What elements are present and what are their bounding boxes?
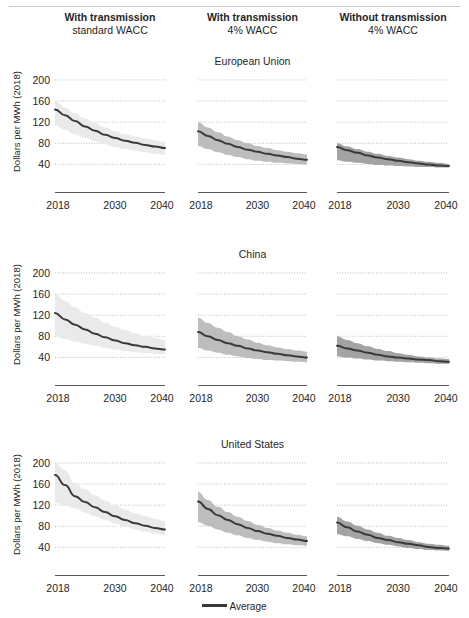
chart-row-1: European UnionDollars per MWh (2018)4080…	[0, 0, 469, 618]
column-header-2: With transmission4% WACC	[176, 11, 329, 36]
average-line	[337, 523, 449, 549]
chart-row-2: ChinaDollars per MWh (2018)4080120160200…	[0, 0, 469, 618]
x-axis-line-r2-c3	[337, 385, 449, 386]
uncertainty-band	[198, 318, 307, 362]
x-tick-2040: 2040	[284, 199, 324, 211]
x-tick-2018: 2018	[320, 392, 360, 404]
column-header-line1: With transmission	[176, 11, 329, 24]
row-title-1: European Union	[187, 55, 318, 67]
plot-area	[198, 455, 307, 558]
x-tick-2018: 2018	[38, 582, 78, 594]
x-tick-2040: 2040	[426, 199, 466, 211]
x-tick-2030: 2030	[237, 392, 277, 404]
panel-r3-c2	[198, 455, 307, 558]
plot-area	[337, 265, 449, 368]
panel-r2-c2	[198, 265, 307, 368]
chart-row-3: United StatesDollars per MWh (2018)40801…	[0, 0, 469, 618]
average-line	[198, 501, 307, 541]
average-line	[55, 475, 165, 529]
plot-area	[198, 265, 307, 368]
uncertainty-band	[198, 492, 307, 546]
y-tick-120: 120	[24, 117, 50, 127]
row-title-2: China	[187, 248, 318, 260]
x-tick-2018: 2018	[320, 582, 360, 594]
panel-r2-c3	[337, 265, 449, 368]
uncertainty-band	[337, 517, 449, 551]
uncertainty-band	[337, 143, 449, 167]
panel-r1-c3	[337, 72, 449, 175]
panel-r1-c2	[198, 72, 307, 175]
column-header-3: Without transmission4% WACC	[315, 11, 469, 36]
y-tick-120: 120	[24, 310, 50, 320]
plot-area	[55, 72, 165, 175]
x-tick-2018: 2018	[181, 199, 221, 211]
column-header-line2: 4% WACC	[176, 24, 329, 37]
x-axis-line-r1-c3	[337, 192, 449, 193]
x-tick-2040: 2040	[142, 582, 182, 594]
y-tick-200: 200	[24, 75, 50, 85]
column-header-line1: With transmission	[33, 11, 187, 24]
plot-area	[337, 455, 449, 558]
y-axis-label-row-1: Dollars per MWh (2018)	[11, 71, 22, 172]
y-tick-80: 80	[24, 138, 50, 148]
x-tick-2030: 2030	[378, 199, 418, 211]
legend-label-average: Average	[229, 601, 266, 612]
x-tick-2040: 2040	[142, 392, 182, 404]
y-tick-200: 200	[24, 268, 50, 278]
uncertainty-band	[55, 294, 165, 354]
average-line	[55, 313, 165, 349]
x-axis-line-r2-c2	[198, 385, 307, 386]
average-line	[337, 147, 449, 166]
y-axis-label-row-3: Dollars per MWh (2018)	[11, 454, 22, 555]
y-tick-160: 160	[24, 479, 50, 489]
y-axis-label-row-2: Dollars per MWh (2018)	[11, 264, 22, 365]
average-line	[337, 346, 449, 362]
plot-area	[198, 72, 307, 175]
x-axis-line-r1-c2	[198, 192, 307, 193]
x-tick-2018: 2018	[181, 392, 221, 404]
column-header-line2: 4% WACC	[315, 24, 469, 37]
y-tick-120: 120	[24, 500, 50, 510]
panel-r3-c3	[337, 455, 449, 558]
y-tick-40: 40	[24, 542, 50, 552]
y-tick-80: 80	[24, 521, 50, 531]
plot-area	[55, 455, 165, 558]
panel-r2-c1	[55, 265, 165, 368]
x-tick-2030: 2030	[237, 582, 277, 594]
x-tick-2018: 2018	[38, 199, 78, 211]
y-tick-40: 40	[24, 159, 50, 169]
x-tick-2030: 2030	[237, 199, 277, 211]
x-axis-line-r3-c3	[337, 575, 449, 576]
x-tick-2018: 2018	[320, 199, 360, 211]
x-tick-2040: 2040	[142, 199, 182, 211]
x-tick-2040: 2040	[284, 392, 324, 404]
panel-r3-c1	[55, 455, 165, 558]
plot-area	[337, 72, 449, 175]
x-tick-2030: 2030	[378, 392, 418, 404]
x-tick-2040: 2040	[426, 392, 466, 404]
x-axis-line-r2-c1	[55, 385, 165, 386]
average-line	[198, 332, 307, 357]
column-headers: With transmissionstandard WACCWith trans…	[0, 11, 469, 47]
uncertainty-band	[55, 463, 165, 535]
x-tick-2018: 2018	[38, 392, 78, 404]
x-tick-2018: 2018	[181, 582, 221, 594]
average-line	[55, 110, 165, 149]
x-tick-2030: 2030	[378, 582, 418, 594]
x-axis-line-r3-c2	[198, 575, 307, 576]
average-line-swatch	[202, 604, 227, 607]
uncertainty-band	[55, 101, 165, 155]
uncertainty-band	[337, 336, 449, 363]
average-line	[198, 131, 307, 160]
uncertainty-band	[198, 122, 307, 164]
y-tick-80: 80	[24, 331, 50, 341]
y-tick-40: 40	[24, 352, 50, 362]
x-tick-2030: 2030	[95, 582, 135, 594]
x-tick-2030: 2030	[95, 392, 135, 404]
header-divider	[9, 6, 460, 7]
column-header-line1: Without transmission	[315, 11, 469, 24]
chart-legend: Average	[0, 600, 469, 612]
column-header-line2: standard WACC	[33, 24, 187, 37]
y-tick-160: 160	[24, 96, 50, 106]
y-tick-160: 160	[24, 289, 50, 299]
